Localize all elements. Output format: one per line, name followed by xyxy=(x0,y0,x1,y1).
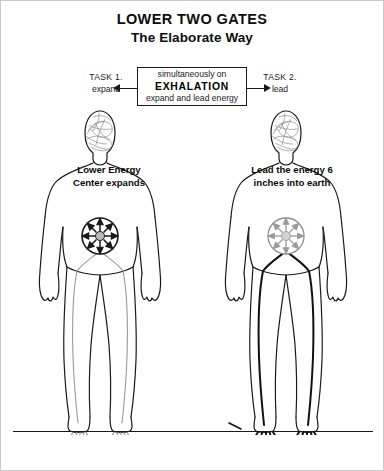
earth-line xyxy=(13,431,373,432)
task-1-title: TASK 1. xyxy=(79,71,133,83)
arrow-left-icon xyxy=(113,84,137,93)
figure-left xyxy=(15,105,185,435)
figure-right xyxy=(201,105,371,435)
title-block: LOWER TWO GATES The Elaborate Way xyxy=(1,11,383,46)
page-subtitle: The Elaborate Way xyxy=(1,29,383,46)
task-2-label: TASK 2. lead xyxy=(253,71,307,95)
exhalation-line-3: expand and lead energy xyxy=(146,93,238,104)
exhalation-box: simultaneously on EXHALATION expand and … xyxy=(137,67,247,106)
task-2-action: lead xyxy=(253,83,307,95)
figure-right-caption: Lead the energy 6 inches into earth xyxy=(244,164,340,189)
chakra-wheel-icon-right xyxy=(268,218,304,254)
figure-left-drawing xyxy=(15,105,185,435)
ground-tick-right xyxy=(229,423,241,429)
task-2-title: TASK 2. xyxy=(253,71,307,83)
figure-left-caption: Lower Energy Center expands xyxy=(61,164,157,189)
page-title: LOWER TWO GATES xyxy=(1,11,383,28)
chakra-wheel-icon-left xyxy=(82,218,118,254)
diagram-page: LOWER TWO GATES The Elaborate Way TASK 1… xyxy=(0,0,384,471)
head-hair-texture xyxy=(86,113,112,151)
figure-right-drawing xyxy=(201,105,371,435)
arrow-left-shaft xyxy=(119,88,137,89)
exhalation-line-1: simultaneously on xyxy=(158,69,227,80)
head-hair-texture xyxy=(272,113,298,151)
exhalation-line-2: EXHALATION xyxy=(155,81,229,92)
